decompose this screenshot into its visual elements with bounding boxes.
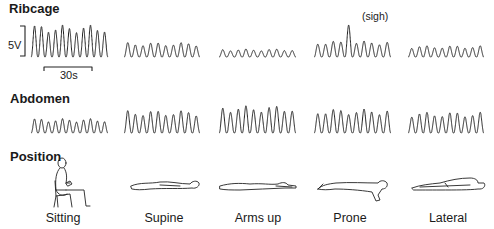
ribcage-trace-arms-up	[219, 49, 296, 57]
supine-figure-icon	[131, 181, 199, 190]
ribcage-trace-supine	[124, 43, 200, 57]
prone-figure-icon	[318, 181, 387, 201]
amplitude-scale-bar	[20, 26, 25, 56]
abdomen-trace-lateral	[408, 112, 484, 133]
position-caption-sitting: Sitting	[23, 211, 103, 225]
position-caption-supine: Supine	[124, 211, 204, 225]
arms-up-figure-icon	[220, 183, 296, 190]
position-caption-lateral: Lateral	[408, 211, 488, 225]
abdomen-trace-arms-up	[219, 106, 296, 133]
ribcage-trace-prone	[314, 25, 391, 57]
abdomen-trace-supine	[124, 111, 200, 133]
abdomen-trace-prone	[314, 109, 391, 133]
abdomen-trace-sitting	[31, 119, 108, 133]
ribcage-trace-sitting	[31, 25, 108, 57]
ribcage-trace-lateral	[408, 46, 484, 57]
traces	[0, 0, 494, 229]
sitting-figure-icon	[54, 158, 90, 207]
lateral-figure-icon	[412, 178, 485, 190]
time-scale-bar	[44, 67, 92, 71]
position-caption-prone: Prone	[310, 211, 390, 225]
position-caption-arms-up: Arms up	[218, 211, 298, 225]
